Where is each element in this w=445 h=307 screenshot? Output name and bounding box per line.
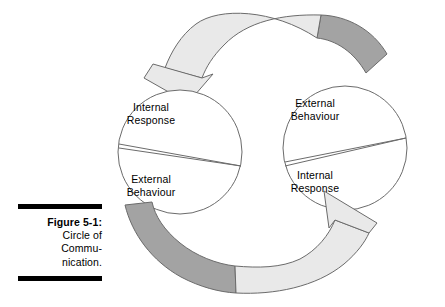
- left-circle-top-label: Internal Response: [108, 101, 194, 126]
- caption-line-1: Circle of: [18, 229, 102, 242]
- caption-rule-bottom: [18, 276, 102, 281]
- caption-line-2: Commu-: [18, 242, 102, 255]
- bottom-arrow-light-band: [235, 220, 369, 293]
- caption-rule-top: [18, 204, 102, 209]
- right-circle-bottom-label: Internal Response: [271, 169, 359, 194]
- bottom-arrow-dark-band: [125, 202, 236, 293]
- left-circle-bottom-label: External Behaviour: [108, 173, 194, 198]
- caption-line-3: nication.: [18, 256, 102, 269]
- figure-caption: Figure 5-1: Circle of Commu- nication.: [18, 204, 102, 281]
- figure-root: Figure 5-1: Circle of Commu- nication.: [0, 0, 445, 307]
- right-circle-top-label: External Behaviour: [271, 97, 359, 122]
- top-arrow-dark-band: [317, 15, 387, 73]
- figure-number-label: Figure 5-1:: [18, 216, 102, 229]
- top-arrow-light-band: [165, 13, 321, 78]
- circle-of-communication-diagram: [95, 2, 440, 305]
